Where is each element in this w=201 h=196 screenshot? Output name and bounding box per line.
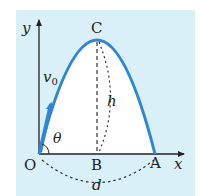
y-axis-label: y (21, 19, 31, 37)
projectile-diagram: y x C O B A v0 θ h d (0, 0, 201, 196)
x-axis-label: x (174, 155, 183, 173)
apex-label: C (91, 19, 102, 37)
angle-label: θ (53, 130, 62, 146)
foot-label: B (91, 156, 102, 174)
height-label: h (107, 92, 117, 110)
origin-label: O (24, 156, 36, 174)
velocity-label: v0 (43, 68, 58, 87)
landing-label: A (149, 154, 161, 172)
distance-label: d (92, 176, 102, 194)
